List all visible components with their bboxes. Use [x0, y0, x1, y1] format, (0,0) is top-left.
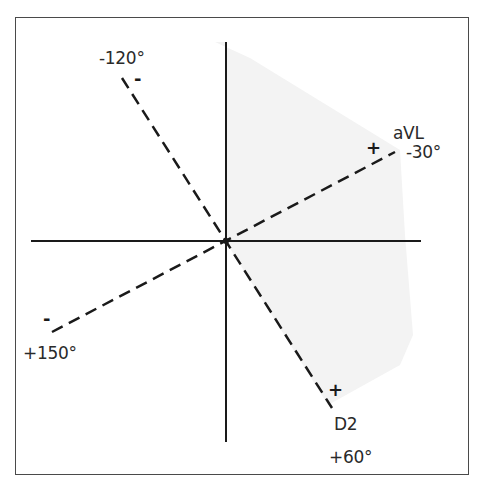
label-plus-60: +60° — [329, 449, 372, 466]
positive-sign-avl: + — [366, 139, 381, 157]
hexaxial-diagram — [0, 0, 482, 487]
negative-sign-minus-120: - — [134, 70, 141, 88]
label-d2: D2 — [334, 416, 357, 433]
label-minus-120: -120° — [99, 50, 145, 67]
shaded-sector — [215, 42, 413, 405]
origin-point — [223, 238, 229, 244]
negative-sign-plus-150: - — [43, 310, 50, 328]
label-plus-150: +150° — [23, 345, 77, 362]
positive-sign-d2: + — [328, 381, 343, 399]
label-avl: aVL — [393, 125, 424, 142]
label-minus-30: -30° — [406, 144, 441, 161]
